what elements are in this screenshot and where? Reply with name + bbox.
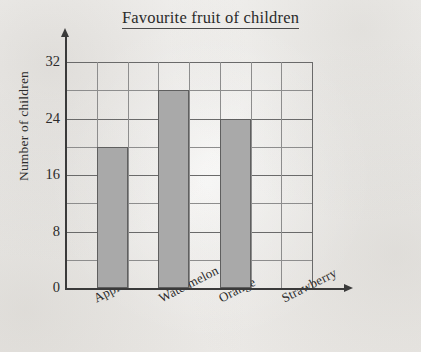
plot-area xyxy=(66,62,312,288)
x-axis-line xyxy=(65,288,346,290)
y-tick-label: 16 xyxy=(32,166,60,183)
y-tick-label: 32 xyxy=(32,53,60,70)
chart-title: Favourite fruit of children xyxy=(0,8,421,28)
chart-title-text: Favourite fruit of children xyxy=(122,8,299,29)
x-axis-arrow-icon xyxy=(344,284,353,292)
gridline-vertical xyxy=(251,62,252,288)
y-axis-arrow-icon xyxy=(61,28,69,37)
y-tick-label: 8 xyxy=(32,223,60,240)
gridline-vertical xyxy=(312,62,313,288)
bar-orange xyxy=(220,119,251,289)
y-tick-label: 0 xyxy=(32,279,60,296)
bar-watermelon xyxy=(158,90,189,288)
gridline-vertical xyxy=(128,62,129,288)
bar-chart-figure: Favourite fruit of children Number of ch… xyxy=(0,0,421,352)
gridline-vertical xyxy=(281,62,282,288)
y-axis-tick-labels: 08162432 xyxy=(26,62,60,288)
y-axis-line xyxy=(65,35,67,289)
y-tick-label: 24 xyxy=(32,110,60,127)
gridline-vertical xyxy=(189,62,190,288)
bar-apple xyxy=(97,147,128,288)
